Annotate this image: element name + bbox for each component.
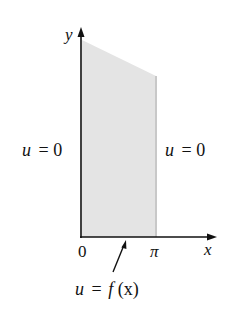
strip-region-diagram: y x 0 π u = 0 u = 0 u = f (x) <box>0 0 231 316</box>
origin-label: 0 <box>78 242 87 261</box>
pointer-arrow-icon <box>121 240 126 249</box>
bottom-boundary-label: u = f (x) <box>75 279 139 300</box>
shaded-strip-region <box>82 40 156 237</box>
left-boundary-label: u = 0 <box>22 140 62 160</box>
y-axis-arrow-icon <box>78 27 85 37</box>
bottom-boundary-pointer <box>113 245 124 272</box>
x-axis-label: x <box>203 240 212 259</box>
right-boundary-label: u = 0 <box>165 140 205 160</box>
y-axis-label: y <box>63 25 73 44</box>
pi-label: π <box>150 242 159 261</box>
